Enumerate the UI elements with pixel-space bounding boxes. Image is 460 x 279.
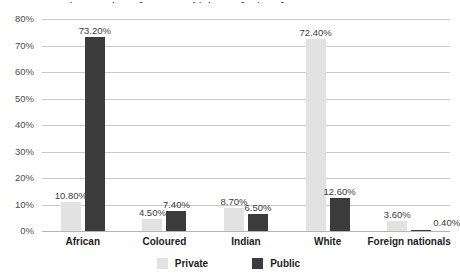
chart-legend: PrivatePublic — [0, 258, 457, 269]
y-axis-tick-label: 10% — [0, 199, 34, 210]
y-axis-tick-label: 80% — [0, 13, 34, 24]
bar-private-foreign-nationals[interactable]: 3.60% — [387, 221, 407, 231]
title-crop-mask — [0, 0, 457, 2]
bar-public-foreign-nationals[interactable]: 0.40% — [411, 230, 431, 232]
bar-data-label: 6.50% — [245, 202, 272, 213]
legend-swatch-public — [252, 258, 263, 269]
bar-public-coloured[interactable]: 7.40% — [166, 211, 186, 231]
category-label-white: White — [314, 236, 341, 247]
legend-label: Public — [270, 258, 300, 269]
bar-private-african[interactable]: 10.80% — [61, 202, 81, 231]
bar-public-african[interactable]: 73.20% — [85, 37, 105, 231]
bar-group: 10.80%73.20% — [61, 19, 105, 231]
bar-data-label: 12.60% — [323, 186, 355, 197]
bar-private-white[interactable]: 72.40% — [306, 39, 326, 231]
y-axis-labels: 80%70%60%50%40%30%20%10%0% — [0, 19, 38, 231]
bar-data-label: 8.70% — [221, 196, 248, 207]
bar-public-indian[interactable]: 6.50% — [248, 214, 268, 231]
category-label-foreign-nationals: Foreign nationals — [368, 236, 451, 247]
y-axis-tick-label: 30% — [0, 146, 34, 157]
axis-baseline — [42, 231, 450, 232]
legend-label: Private — [175, 258, 208, 269]
plot-area: 10.80%73.20%4.50%7.40%8.70%6.50%72.40%12… — [42, 19, 450, 231]
category-label-african: African — [66, 236, 100, 247]
bar-private-coloured[interactable]: 4.50% — [142, 219, 162, 231]
y-axis-tick-label: 70% — [0, 40, 34, 51]
y-axis-tick-label: 50% — [0, 93, 34, 104]
y-axis-tick-label: 20% — [0, 172, 34, 183]
bar-data-label: 7.40% — [163, 199, 190, 210]
bar-private-indian[interactable]: 8.70% — [224, 208, 244, 231]
bar-data-label: 72.40% — [299, 27, 331, 38]
bar-data-label: 0.40% — [433, 217, 460, 228]
bar-group: 3.60%0.40% — [387, 19, 431, 231]
category-label-indian: Indian — [231, 236, 260, 247]
bar-group: 8.70%6.50% — [224, 19, 268, 231]
y-axis-tick-label: 60% — [0, 66, 34, 77]
bar-group: 4.50%7.40% — [142, 19, 186, 231]
bar-data-label: 4.50% — [139, 207, 166, 218]
legend-item-public[interactable]: Public — [252, 258, 300, 269]
legend-swatch-private — [157, 258, 168, 269]
y-axis-tick-label: 40% — [0, 119, 34, 130]
y-axis-tick-label: 0% — [0, 225, 34, 236]
bar-data-label: 10.80% — [55, 190, 87, 201]
legend-item-private[interactable]: Private — [157, 258, 208, 269]
bar-public-white[interactable]: 12.60% — [330, 198, 350, 231]
bar-group: 72.40%12.60% — [306, 19, 350, 231]
bar-data-label: 3.60% — [384, 209, 411, 220]
category-label-coloured: Coloured — [142, 236, 186, 247]
bar-data-label: 73.20% — [79, 25, 111, 36]
